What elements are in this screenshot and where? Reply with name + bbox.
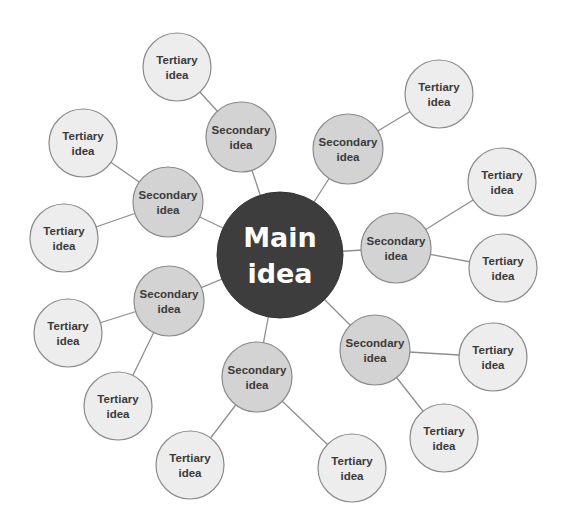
secondary-idea-node-label: idea [229,139,253,151]
main-idea-node-label: idea [247,258,312,289]
secondary-idea-node-circle [222,342,292,412]
tertiary-idea-node[interactable]: Tertiaryidea [318,434,386,502]
secondary-idea-node-circle [133,167,203,237]
nodes: TertiaryideaTertiaryideaTertiaryideaTert… [30,33,537,502]
secondary-idea-node[interactable]: Secondaryidea [222,342,292,412]
tertiary-idea-node-label: Tertiary [43,225,85,237]
tertiary-idea-node-label: idea [427,96,451,108]
tertiary-idea-node-circle [405,60,473,128]
secondary-idea-node-label: idea [363,352,387,364]
tertiary-idea-node-label: Tertiary [481,169,523,181]
tertiary-idea-node-circle [156,431,224,499]
tertiary-idea-node-label: Tertiary [156,54,198,66]
tertiary-idea-node[interactable]: Tertiaryidea [30,204,98,272]
tertiary-idea-node[interactable]: Tertiaryidea [156,431,224,499]
tertiary-idea-node-circle [468,148,536,216]
tertiary-idea-node-label: idea [71,145,95,157]
tertiary-idea-node[interactable]: Tertiaryidea [405,60,473,128]
secondary-idea-node-label: Secondary [139,189,198,201]
tertiary-idea-node-label: Tertiary [418,81,460,93]
tertiary-idea-node-circle [469,234,537,302]
tertiary-idea-node[interactable]: Tertiaryidea [468,148,536,216]
secondary-idea-node-circle [361,213,431,283]
secondary-idea-node-circle [340,315,410,385]
tertiary-idea-node-label: Tertiary [331,455,373,467]
tertiary-idea-node-circle [143,33,211,101]
tertiary-idea-node-label: Tertiary [62,130,104,142]
secondary-idea-node[interactable]: Secondaryidea [340,315,410,385]
secondary-idea-node[interactable]: Secondaryidea [206,102,276,172]
tertiary-idea-node[interactable]: Tertiaryidea [410,404,478,472]
secondary-idea-node[interactable]: Secondaryidea [133,167,203,237]
tertiary-idea-node-circle [34,299,102,367]
secondary-idea-node[interactable]: Secondaryidea [361,213,431,283]
tertiary-idea-node-circle [459,323,527,391]
tertiary-idea-node-label: idea [106,408,130,420]
secondary-idea-node-circle [206,102,276,172]
tertiary-idea-node-circle [30,204,98,272]
tertiary-idea-node-label: idea [481,359,505,371]
tertiary-idea-node-label: Tertiary [97,393,139,405]
tertiary-idea-node-circle [84,372,152,440]
tertiary-idea-node-label: idea [490,184,514,196]
secondary-idea-node-label: idea [245,379,269,391]
secondary-idea-node[interactable]: Secondaryidea [134,266,204,336]
tertiary-idea-node[interactable]: Tertiaryidea [459,323,527,391]
tertiary-idea-node-label: Tertiary [169,452,211,464]
tertiary-idea-node-label: idea [165,69,189,81]
tertiary-idea-node-label: Tertiary [47,320,89,332]
main-idea-node-label: Main [243,222,317,253]
tertiary-idea-node[interactable]: Tertiaryidea [34,299,102,367]
secondary-idea-node-label: idea [336,151,360,163]
tertiary-idea-node-label: idea [432,440,456,452]
mind-map: TertiaryideaTertiaryideaTertiaryideaTert… [0,0,567,530]
secondary-idea-node-circle [313,114,383,184]
main-idea-node-circle [217,192,343,318]
secondary-idea-node[interactable]: Secondaryidea [313,114,383,184]
secondary-idea-node-label: Secondary [140,288,199,300]
tertiary-idea-node-label: idea [340,470,364,482]
tertiary-idea-node-label: Tertiary [482,255,524,267]
tertiary-idea-node[interactable]: Tertiaryidea [49,109,117,177]
tertiary-idea-node-label: idea [178,467,202,479]
secondary-idea-node-label: idea [156,204,180,216]
secondary-idea-node-label: Secondary [319,136,378,148]
tertiary-idea-node[interactable]: Tertiaryidea [84,372,152,440]
secondary-idea-node-label: idea [157,303,181,315]
secondary-idea-node-circle [134,266,204,336]
main-idea-node[interactable]: Mainidea [217,192,343,318]
tertiary-idea-node-label: idea [56,335,80,347]
tertiary-idea-node-circle [318,434,386,502]
secondary-idea-node-label: Secondary [212,124,271,136]
tertiary-idea-node-label: idea [491,270,515,282]
tertiary-idea-node[interactable]: Tertiaryidea [469,234,537,302]
tertiary-idea-node-label: Tertiary [423,425,465,437]
secondary-idea-node-label: Secondary [346,337,405,349]
secondary-idea-node-label: Secondary [228,364,287,376]
tertiary-idea-node-label: idea [52,240,76,252]
tertiary-idea-node-label: Tertiary [472,344,514,356]
tertiary-idea-node-circle [410,404,478,472]
tertiary-idea-node-circle [49,109,117,177]
secondary-idea-node-label: Secondary [367,235,426,247]
secondary-idea-node-label: idea [384,250,408,262]
tertiary-idea-node[interactable]: Tertiaryidea [143,33,211,101]
